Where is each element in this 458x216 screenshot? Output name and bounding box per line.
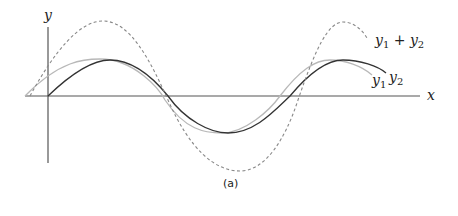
sum-label-plus: + [389,32,410,48]
y2-curve-label: y2 [389,70,403,87]
y-axis-label: y [44,8,52,22]
y1-label-sub: 1 [380,79,386,90]
y1-curve-label: y1 [372,73,386,90]
sum-curve-label: y1 + y2 [375,33,424,50]
figure-caption: (a) [223,178,238,189]
y2-label-sub: 2 [397,76,403,87]
y1-label-base: y [372,72,380,88]
wave-superposition-figure: y x y1 + y2 y1 y2 (a) [0,0,458,216]
sum-label-y1-base: y [375,32,383,48]
y2-label-base: y [389,69,397,85]
sum-label-y2-sub: 2 [418,39,424,50]
x-axis-label: x [427,88,435,102]
sum-label-y2-base: y [410,32,418,48]
